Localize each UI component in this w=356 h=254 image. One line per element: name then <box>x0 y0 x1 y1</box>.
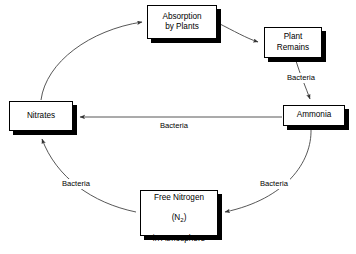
node-ammonia[interactable]: Ammonia <box>283 105 345 126</box>
free-nitrogen-formula: (N2) <box>172 213 187 222</box>
edge-label-bacteria-ammonia-to-free-nitrogen: Bacteria <box>258 179 290 189</box>
node-ammonia-label: Ammonia <box>294 110 335 121</box>
edge-nitrates-to-absorption <box>41 22 142 100</box>
node-plant-remains-label: Plant Remains <box>274 32 312 53</box>
free-nitrogen-formula-close: ) <box>184 213 187 222</box>
free-nitrogen-subscript: 2 <box>180 217 183 223</box>
free-nitrogen-line-3: in Atmosphere <box>153 234 205 243</box>
node-free-nitrogen-label: Free Nitrogen (N2) in Atmosphere <box>150 182 208 244</box>
free-nitrogen-formula-open: (N <box>172 213 181 222</box>
edge-label-bacteria-plant-remains-to-ammonia: Bacteria <box>285 73 317 83</box>
edge-label-bacteria-free-nitrogen-to-nitrates: Bacteria <box>60 179 92 189</box>
node-nitrates-label: Nitrates <box>24 111 58 122</box>
node-plant-remains[interactable]: Plant Remains <box>264 27 322 58</box>
edge-free-nitrogen-to-nitrates <box>42 139 136 212</box>
edge-label-bacteria-ammonia-to-nitrates: Bacteria <box>158 121 190 131</box>
edge-ammonia-to-free-nitrogen <box>225 129 311 212</box>
node-absorption-by-plants[interactable]: Absorption by Plants <box>147 5 217 39</box>
edge-absorption-to-plant-remains <box>218 23 258 42</box>
node-nitrates[interactable]: Nitrates <box>9 101 73 131</box>
node-absorption-label: Absorption by Plants <box>159 12 204 33</box>
nitrogen-cycle-diagram: Absorption by Plants Plant Remains Ammon… <box>0 0 356 254</box>
free-nitrogen-line-1: Free Nitrogen <box>154 193 204 202</box>
node-free-nitrogen[interactable]: Free Nitrogen (N2) in Atmosphere <box>140 190 218 236</box>
